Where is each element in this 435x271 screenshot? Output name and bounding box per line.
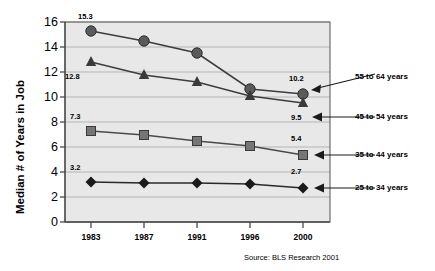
data-label-35-44-first: 7.3 <box>70 112 80 121</box>
x-tick-2000: 2000 <box>283 232 323 242</box>
data-label-25-34-first: 3.2 <box>70 163 80 172</box>
x-axis <box>65 222 330 228</box>
data-label-45-54-first: 12.8 <box>65 72 80 81</box>
data-label-55-64-last: 10.2 <box>289 74 304 83</box>
legend-item-45-to-54: 45 to 54 years <box>355 112 408 121</box>
x-tick-1996: 1996 <box>230 232 270 242</box>
legend-item-25-to-34: 25 to 34 years <box>355 183 408 192</box>
data-label-55-64-first: 15.3 <box>78 12 93 21</box>
data-label-45-54-last: 9.5 <box>291 113 301 122</box>
source-note: Source: BLS Research 2001 <box>244 253 339 262</box>
legend-item-35-to-44: 35 to 44 years <box>355 150 408 159</box>
chart-figure: Median # of Years in Job 16 14 12 10 8 6… <box>0 0 435 271</box>
y-axis <box>60 22 65 222</box>
x-tick-1983: 1983 <box>71 232 111 242</box>
legend-item-55-to-64: 55 to 64 years <box>355 72 408 81</box>
plot-canvas <box>0 0 435 271</box>
x-tick-1987: 1987 <box>124 232 164 242</box>
data-label-35-44-last: 5.4 <box>291 134 301 143</box>
data-label-25-34-last: 2.7 <box>291 167 301 176</box>
x-tick-1991: 1991 <box>177 232 217 242</box>
